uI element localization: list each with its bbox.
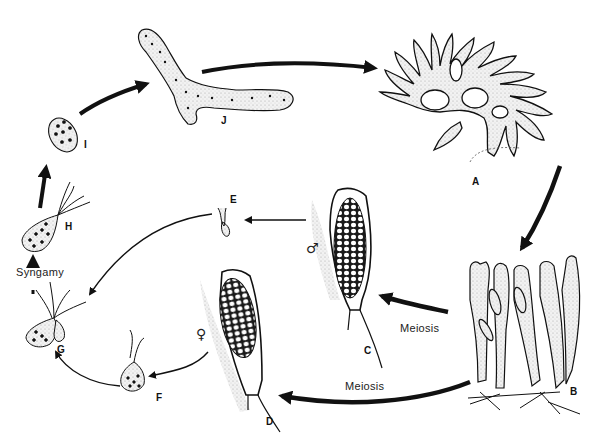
meiosis-label-upper: Meiosis [400, 322, 439, 334]
label-i: I [84, 139, 87, 150]
stage-e-male-gamete [218, 208, 230, 236]
arrow-d-to-f [150, 352, 208, 376]
stage-b-filaments [470, 256, 579, 388]
female-symbol: ♀ [196, 326, 206, 342]
label-b: B [570, 386, 577, 397]
arrow-i-to-j [80, 84, 146, 114]
stage-f-female-gamete [121, 330, 145, 391]
arrow-e-to-g [90, 214, 212, 294]
stage-c-male-gametangium [330, 188, 382, 368]
label-a: A [472, 176, 479, 187]
arrow-b-to-c [382, 296, 448, 312]
arrow-h-to-i [40, 168, 46, 208]
label-h: H [65, 221, 72, 232]
label-j: J [221, 115, 227, 126]
stage-g-fusing-gametes [26, 282, 86, 347]
stage-h-zygote [22, 182, 90, 252]
arrow-j-to-a [202, 63, 374, 72]
stage-j-germling [139, 29, 294, 124]
male-symbol: ♂ [306, 240, 319, 256]
label-g: G [57, 344, 65, 355]
arrow-a-to-b [522, 166, 560, 248]
label-d: D [266, 416, 273, 427]
meiosis-label-lower: Meiosis [345, 380, 384, 392]
label-c: C [364, 345, 371, 356]
label-f: F [156, 392, 162, 403]
label-e: E [230, 194, 237, 205]
stage-i-settled-zygote [43, 113, 84, 157]
life-cycle-illustration [0, 0, 611, 443]
syngamy-label: Syngamy [16, 266, 64, 278]
stage-a-thallus [380, 34, 552, 156]
arrow-f-to-g [56, 352, 120, 386]
